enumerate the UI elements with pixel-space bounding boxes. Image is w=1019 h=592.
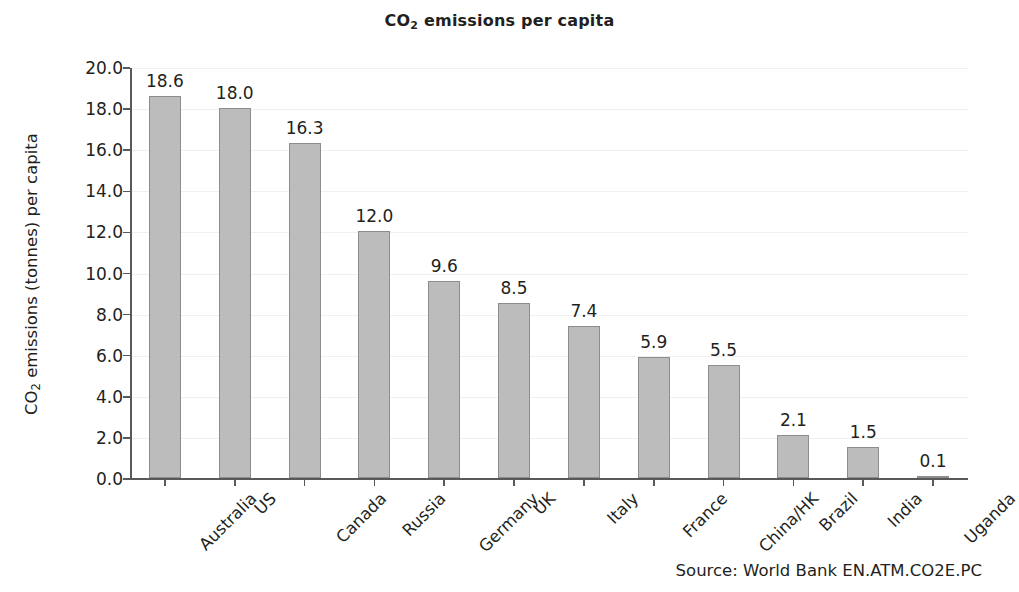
y-axis-tick-label: 12.0 (61, 222, 123, 242)
gridline (130, 356, 968, 357)
y-axis-title-container: CO2 emissions (tonnes) per capita (16, 68, 46, 480)
y-axis-tick-label: 2.0 (61, 428, 123, 448)
x-axis-category-label: Australia (195, 489, 260, 554)
y-axis-title-pre: CO (22, 390, 41, 415)
y-axis-tick-label: 10.0 (61, 264, 123, 284)
x-axis-tickmark (723, 479, 725, 486)
chart-title: CO2 emissions per capita (0, 11, 999, 30)
y-axis-tickmark (123, 273, 130, 275)
bar-value-label: 0.1 (920, 451, 947, 471)
x-axis-category-label: Brazil (816, 489, 862, 535)
x-axis-category-label: Germany (475, 489, 542, 556)
y-axis-tickmark (123, 67, 130, 69)
y-axis-tick-label: 20.0 (61, 58, 123, 78)
y-axis-tick-label: 14.0 (61, 181, 123, 201)
bar-value-label: 5.9 (640, 332, 667, 352)
bar (289, 143, 321, 478)
bar-value-label: 1.5 (850, 422, 877, 442)
gridline (130, 191, 968, 192)
gridline (130, 438, 968, 439)
x-axis-tickmark (653, 479, 655, 486)
bar-value-label: 5.5 (710, 340, 737, 360)
gridline (130, 150, 968, 151)
x-axis-tickmark (932, 479, 934, 486)
gridline (130, 68, 968, 69)
gridline (130, 109, 968, 110)
chart-title-post: emissions per capita (418, 11, 614, 30)
x-axis-tickmark (234, 479, 236, 486)
x-axis-category-label: Russia (399, 489, 450, 540)
x-axis-tickmark (793, 479, 795, 486)
x-axis-category-label: Uganda (961, 489, 1019, 547)
bar-value-label: 18.0 (216, 83, 254, 103)
x-axis-tickmark (164, 479, 166, 486)
y-axis-tick-label: 0.0 (61, 469, 123, 489)
bar (568, 326, 600, 478)
bar (498, 303, 530, 478)
plot-area: 18.618.016.312.09.68.57.45.95.52.11.50.1 (130, 68, 968, 479)
bar (149, 96, 181, 478)
x-axis-category-labels: AustraliaUSCanadaRussiaGermanyUKItalyFra… (130, 489, 968, 559)
x-axis-category-label: Canada (332, 489, 390, 547)
y-axis-tick-label: 8.0 (61, 305, 123, 325)
y-axis-title-post: emissions (tonnes) per capita (22, 133, 41, 383)
bar (358, 231, 390, 478)
y-axis-tickmark (123, 314, 130, 316)
bar-value-label: 7.4 (570, 301, 597, 321)
y-axis-tickmark (123, 355, 130, 357)
y-axis-ticks: 0.02.04.06.08.010.012.014.016.018.020.0 (55, 68, 123, 479)
y-axis-line (130, 68, 132, 479)
chart-title-subscript: 2 (410, 19, 418, 32)
y-axis-tickmark (123, 232, 130, 234)
x-axis-category-label: France (679, 489, 731, 541)
bar (428, 281, 460, 478)
bar-value-label: 2.1 (780, 410, 807, 430)
bar (638, 357, 670, 478)
y-axis-tick-label: 16.0 (61, 140, 123, 160)
bar-value-label: 12.0 (355, 206, 393, 226)
gridline (130, 397, 968, 398)
x-axis-tickmark (513, 479, 515, 486)
x-axis-tickmark (862, 479, 864, 486)
y-axis-tickmark (123, 478, 130, 480)
y-axis-tick-label: 6.0 (61, 346, 123, 366)
x-axis-tickmark (583, 479, 585, 486)
gridline (130, 274, 968, 275)
bar-value-label: 16.3 (286, 118, 324, 138)
y-axis-tickmark (123, 149, 130, 151)
x-axis-tickmark (374, 479, 376, 486)
y-axis-tick-label: 18.0 (61, 99, 123, 119)
y-axis-tick-label: 4.0 (61, 387, 123, 407)
y-axis-tickmark (123, 437, 130, 439)
bar (847, 447, 879, 478)
bar (708, 365, 740, 478)
y-axis-tickmark (123, 191, 130, 193)
gridline (130, 315, 968, 316)
y-axis-tickmark (123, 108, 130, 110)
gridline (130, 232, 968, 233)
x-axis-tickmark (443, 479, 445, 486)
x-axis-category-label: India (884, 489, 926, 531)
y-axis-tickmark (123, 396, 130, 398)
x-axis-line (130, 478, 968, 480)
chart-title-pre: CO (385, 11, 411, 30)
x-axis-tickmark (304, 479, 306, 486)
x-axis-category-label: US (250, 489, 279, 518)
x-axis-category-label: China/HK (755, 489, 822, 556)
y-axis-title: CO2 emissions (tonnes) per capita (22, 133, 41, 415)
bar (219, 108, 251, 478)
y-axis-title-subscript: 2 (29, 383, 43, 390)
bar-value-label: 9.6 (431, 256, 458, 276)
bar-value-label: 8.5 (501, 278, 528, 298)
source-note: Source: World Bank EN.ATM.CO2E.PC (676, 561, 982, 580)
x-axis-category-label: Italy (603, 489, 642, 528)
bar (777, 435, 809, 478)
bar-value-label: 18.6 (146, 71, 184, 91)
